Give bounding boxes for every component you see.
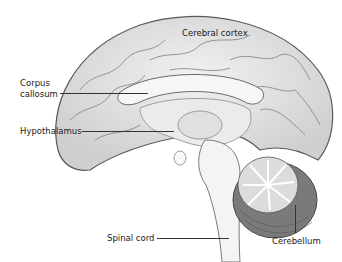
leader-hypothalamus: [82, 131, 174, 132]
brain-diagram: Cerebral cortex Corpus callosum Hypothal…: [0, 0, 342, 262]
label-spinal-cord: Spinal cord: [107, 233, 154, 243]
label-cerebellum: Cerebellum: [272, 236, 321, 246]
leader-cerebellum: [295, 205, 296, 233]
label-corpus-callosum-line1: Corpus: [20, 78, 50, 88]
cerebellum-shape: [233, 157, 317, 238]
label-hypothalamus: Hypothalamus: [20, 126, 82, 136]
label-corpus-callosum-line2: callosum: [20, 89, 58, 99]
leader-corpus-callosum: [60, 93, 148, 94]
label-cerebral-cortex: Cerebral cortex: [182, 28, 248, 38]
leader-spinal-cord: [157, 238, 229, 239]
